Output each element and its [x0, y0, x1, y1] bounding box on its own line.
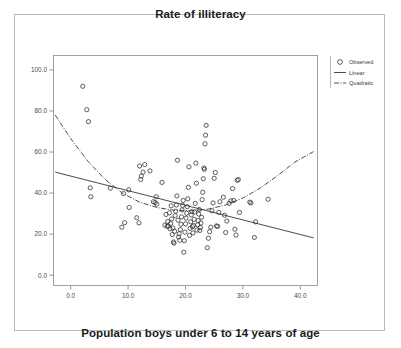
data-point: [194, 161, 198, 165]
data-point: [208, 230, 212, 234]
data-point: [167, 211, 171, 215]
data-point: [166, 219, 170, 223]
data-point: [201, 177, 205, 181]
data-point: [148, 169, 152, 173]
data-point: [198, 225, 202, 229]
data-point: [218, 200, 222, 204]
y-tick-label: 80.0: [35, 107, 48, 114]
data-point: [141, 170, 145, 174]
data-point: [169, 204, 173, 208]
x-tick-label: 20.0: [179, 292, 192, 299]
data-point: [174, 209, 178, 213]
x-tick-label: 10.0: [122, 292, 135, 299]
scatter-plot: 0.010.020.030.040.00.020.040.060.080.010…: [0, 0, 401, 348]
data-point: [201, 190, 205, 194]
data-point: [200, 198, 204, 202]
data-point: [191, 231, 195, 235]
data-point: [191, 223, 195, 227]
data-point: [186, 185, 190, 189]
data-point: [196, 219, 200, 223]
legend-label-quadratic: Quadratic: [349, 80, 373, 86]
data-point: [236, 177, 240, 181]
legend-label-observed: Observed: [349, 59, 373, 65]
data-point: [237, 210, 241, 214]
data-point: [183, 222, 187, 226]
data-point: [211, 201, 215, 205]
data-point: [205, 246, 209, 250]
data-point: [186, 197, 190, 201]
legend-marker-observed: [338, 60, 343, 65]
observed-points-layer: [81, 84, 271, 254]
data-point: [233, 227, 237, 231]
data-point: [183, 230, 187, 234]
data-point: [193, 201, 197, 205]
data-point: [179, 215, 183, 219]
data-point: [199, 221, 203, 225]
data-point: [178, 228, 182, 232]
data-point: [194, 181, 198, 185]
data-point: [203, 133, 207, 137]
data-point: [168, 221, 172, 225]
x-axis-caption: Population boys under 6 to 14 years of a…: [0, 327, 401, 339]
data-point: [174, 203, 178, 207]
data-point: [213, 170, 217, 174]
data-point: [181, 198, 185, 202]
x-tick-label: 40.0: [294, 292, 307, 299]
data-point: [85, 108, 89, 112]
data-point: [182, 250, 186, 254]
data-point: [123, 221, 127, 225]
data-point: [127, 205, 131, 209]
data-point: [170, 217, 174, 221]
legend-label-linear: Linear: [349, 70, 365, 76]
data-point: [108, 186, 112, 190]
data-point: [204, 123, 208, 127]
data-point: [137, 164, 141, 168]
data-point: [192, 217, 196, 221]
data-point: [143, 162, 147, 166]
data-point: [193, 210, 197, 214]
chart-legend: ObservedLinearQuadratic: [331, 56, 374, 88]
data-point: [199, 215, 203, 219]
y-tick-label: 100.0: [31, 66, 47, 73]
data-point: [252, 235, 256, 239]
data-point: [180, 208, 184, 212]
y-tick-label: 60.0: [35, 148, 48, 155]
fit-line-quadratic: [55, 115, 313, 211]
data-point: [120, 225, 124, 229]
data-point: [185, 205, 189, 209]
data-point: [249, 201, 253, 205]
x-tick-label: 30.0: [237, 292, 250, 299]
data-point: [86, 120, 90, 124]
y-tick-label: 40.0: [35, 189, 48, 196]
data-point: [179, 222, 183, 226]
data-point: [185, 211, 189, 215]
data-point: [221, 195, 225, 199]
data-point: [206, 236, 210, 240]
data-point: [203, 142, 207, 146]
data-point: [181, 203, 185, 207]
data-point: [266, 197, 270, 201]
y-tick-label: 20.0: [35, 230, 48, 237]
y-tick-label: 0.0: [38, 272, 47, 279]
data-point: [173, 214, 177, 218]
data-point: [160, 180, 164, 184]
data-point: [173, 229, 177, 233]
x-tick-label: 0.0: [66, 292, 75, 299]
data-point: [209, 225, 213, 229]
data-point: [175, 158, 179, 162]
data-point: [224, 230, 228, 234]
data-point: [176, 218, 180, 222]
data-point: [225, 219, 229, 223]
data-point: [137, 221, 141, 225]
data-point: [187, 165, 191, 169]
chart-figure: Rate of illiteracy 0.010.020.030.040.00.…: [0, 0, 401, 348]
data-point: [88, 186, 92, 190]
data-point: [135, 216, 139, 220]
data-point: [182, 239, 186, 243]
data-point: [89, 195, 93, 199]
data-point: [212, 176, 216, 180]
data-point: [184, 216, 188, 220]
data-point: [81, 84, 85, 88]
data-point: [175, 194, 179, 198]
data-point: [230, 186, 234, 190]
